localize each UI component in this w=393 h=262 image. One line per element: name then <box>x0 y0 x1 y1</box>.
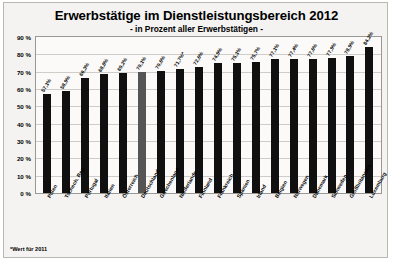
x-axis-label-slot: Luxemburg <box>366 194 374 244</box>
y-axis-tick-label: 60 % <box>17 86 31 93</box>
y-axis-tick-label: 70 % <box>17 68 31 75</box>
bar: 75,7% <box>252 62 260 193</box>
bar: 77,4% <box>290 59 298 193</box>
x-axis-label-slot: Frankreich <box>214 194 222 244</box>
x-axis-label-slot: Spanien <box>233 194 241 244</box>
x-axis-label-slot: Deutschland <box>138 194 146 244</box>
y-axis-tick-label: 10 % <box>17 172 31 179</box>
x-axis-label-slot: Polen <box>43 194 51 244</box>
x-axis-label-slot: Norwegen <box>290 194 298 244</box>
bar-value-label: 75,1% <box>230 46 242 62</box>
bar-value-label: 77,9% <box>324 41 336 57</box>
y-axis-tick-label: 80 % <box>17 51 31 58</box>
y-axis-tick-label: 40 % <box>17 120 31 127</box>
y-axis-tick-label: 20 % <box>17 155 31 162</box>
y-axis-tick-label: 90 % <box>17 34 31 41</box>
bar-value-label: 75,7% <box>249 45 261 61</box>
bar-value-label: 71,7%* <box>173 50 186 67</box>
x-axis-label-slot: Griechenland <box>157 194 165 244</box>
bar: 74,9% <box>214 63 222 193</box>
x-axis-label-slot: Niederlande <box>176 194 184 244</box>
x-axis-label-slot: Tschech. Rep. <box>62 194 70 244</box>
x-axis-label-slot: Portugal <box>81 194 89 244</box>
bar-value-label: 70,6% <box>154 54 166 70</box>
bar: 69,2% <box>119 73 127 193</box>
bar-value-label: 68,8% <box>97 57 109 73</box>
bar-value-label: 77,6% <box>305 42 317 58</box>
bar-value-label: 77,4% <box>286 42 298 58</box>
bar: 70,1% <box>138 72 146 194</box>
bar-series: 57,1%58,9%66,3%68,8%69,2%70,1%70,6%71,7%… <box>36 37 381 193</box>
y-axis-tick-label: 30 % <box>17 138 31 145</box>
bar-value-label: 70,1% <box>135 55 147 71</box>
chart-title: Erwerbstätige im Dienstleistungsbereich … <box>4 8 389 23</box>
bar: 68,8% <box>100 74 108 193</box>
plot-area: 57,1%58,9%66,3%68,8%69,2%70,1%70,6%71,7%… <box>35 36 382 194</box>
bar-value-label: 74,9% <box>211 47 223 63</box>
x-axis-label-slot: Österreich <box>119 194 127 244</box>
bar: 77,9% <box>328 58 336 193</box>
chart-subtitle: - in Prozent aller Erwerbstätigen - <box>4 24 389 34</box>
bar-value-label: 57,1% <box>40 78 52 94</box>
x-axis-label-slot: Finnland <box>195 194 203 244</box>
bar-value-label: 78,9% <box>343 40 355 56</box>
x-axis-label-slot: Italien <box>100 194 108 244</box>
x-axis-label-slot: Dänemark <box>309 194 317 244</box>
chart-container: Erwerbstätige im Dienstleistungsbereich … <box>3 2 388 258</box>
bar: 77,6% <box>309 59 317 194</box>
bar: 57,1% <box>43 94 51 193</box>
bar-value-label: 58,9% <box>59 74 71 90</box>
bar: 77,1% <box>271 59 279 193</box>
y-axis: 90 %80 %70 %60 %50 %40 %30 %20 %10 %0 % <box>4 36 33 194</box>
y-axis-tick-label: 0 % <box>20 190 31 197</box>
y-axis-tick-label: 50 % <box>17 103 31 110</box>
bar: 78,9% <box>346 56 354 193</box>
bar-value-label: 77,1% <box>267 43 279 59</box>
bar-value-label: 66,3% <box>78 62 90 78</box>
bar: 75,1% <box>233 63 241 193</box>
x-axis-label-slot: Schweden <box>328 194 336 244</box>
bar: 66,3% <box>81 78 89 193</box>
x-axis-label-slot: Belgien <box>271 194 279 244</box>
x-axis-labels: PolenTschech. Rep.PortugalItalienÖsterre… <box>35 194 382 244</box>
bar-value-label: 72,6% <box>192 51 204 67</box>
x-axis-label-slot: Großbritannien <box>347 194 355 244</box>
bar: 58,9% <box>62 91 70 193</box>
chart-footnote: *Wert für 2011 <box>10 246 47 252</box>
bar-value-label: 69,2% <box>116 57 128 73</box>
x-axis-label-slot: Irland <box>252 194 260 244</box>
